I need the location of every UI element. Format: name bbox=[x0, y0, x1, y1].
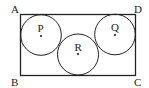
circle-label-r: R bbox=[75, 41, 83, 53]
vertex-label-a: A bbox=[11, 3, 19, 15]
center-q-dot bbox=[114, 34, 116, 36]
circle-label-p: P bbox=[38, 22, 44, 34]
vertex-label-c: C bbox=[134, 76, 141, 88]
vertex-label-b: B bbox=[11, 76, 18, 88]
center-r-dot bbox=[77, 53, 79, 55]
geometry-diagram: A D B C P R Q bbox=[0, 0, 149, 88]
vertex-label-d: D bbox=[134, 3, 142, 15]
center-p-dot bbox=[40, 35, 42, 37]
circle-label-q: Q bbox=[111, 21, 119, 33]
